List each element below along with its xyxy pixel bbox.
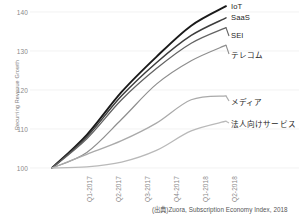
series-label-b2b: 法人向けサービス [231,118,296,129]
y-tick-110: 110 [6,126,28,133]
x-tick-q2-2017: Q2-2017 [115,176,122,202]
series-lines-group [52,6,226,168]
x-tick-q1-2018: Q1-2018 [202,176,209,202]
x-tick-q3-2017: Q3-2017 [144,176,151,202]
series-label-iot: IoT [231,2,242,11]
series-label-sei: SEI [231,31,244,40]
leader-line-メディア [226,96,229,101]
series-line-テレコム [52,45,226,168]
leader-line-テレコム [226,45,229,54]
series-label-media: メディア [231,96,262,107]
series-line-SaaS [52,18,226,168]
y-tick-130: 130 [6,48,28,55]
label-leader-lines-group [226,28,229,123]
series-label-telecom: テレコム [231,49,263,60]
chart-canvas: Recurring Revenue Growth 140 130 120 110… [0,0,305,220]
x-tick-q1-2017: Q1-2017 [86,176,93,202]
x-tick-q4-2017: Q4-2017 [173,176,180,202]
series-label-saas: SaaS [231,13,250,22]
leader-line-SEI [226,28,229,36]
gridlines-group [30,12,299,168]
leader-line-法人向けサービス [226,121,229,123]
y-tick-100: 100 [6,165,28,172]
line-chart-plot [0,0,305,220]
source-note: (出典)Zuora, Subscription Economy Index, 2… [152,205,288,214]
y-tick-120: 120 [6,87,28,94]
y-tick-140: 140 [6,9,28,16]
x-tick-q2-2018: Q2-2018 [231,176,238,202]
